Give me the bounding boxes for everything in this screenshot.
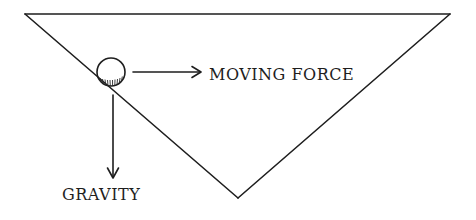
moving-force-label: MOVING FORCE [209, 65, 354, 84]
triangle-right-slope [238, 14, 450, 198]
moving-force-arrow [133, 67, 201, 78]
triangle-left-slope [25, 14, 238, 198]
gravity-arrow [108, 95, 119, 178]
force-diagram: MOVING FORCE GRAVITY [0, 0, 476, 220]
gravity-label: GRAVITY [62, 185, 140, 204]
ball [97, 58, 125, 86]
inverted-triangle [25, 14, 450, 198]
triangle-top-edge [25, 14, 450, 15]
